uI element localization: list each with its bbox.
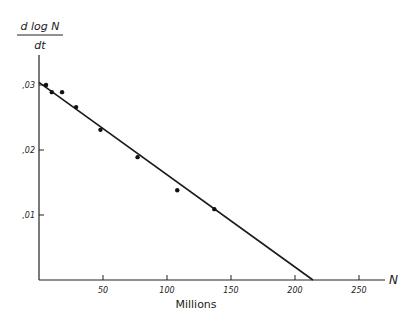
- data-point: [44, 83, 48, 87]
- data-point: [60, 90, 64, 94]
- data-point: [135, 155, 139, 159]
- y-label-numerator: d log N: [21, 20, 60, 33]
- x-tick-label: 100: [159, 286, 174, 295]
- data-point: [98, 128, 102, 132]
- data-point: [175, 188, 179, 192]
- fit-line: [39, 82, 313, 280]
- chart: d log N dt N 50100150200250 ,01,02,03 Mi…: [0, 0, 414, 330]
- x-tick-label: 250: [351, 286, 366, 295]
- y-label-denominator: dt: [34, 39, 46, 52]
- x-axis-title: Millions: [175, 298, 216, 311]
- x-tick-label: 50: [98, 286, 108, 295]
- y-ticks: ,01,02,03: [22, 81, 44, 220]
- y-tick-label: ,01: [22, 211, 35, 220]
- data-point: [50, 90, 54, 94]
- x-ticks: 50100150200250: [98, 275, 367, 295]
- data-point: [212, 207, 216, 211]
- y-tick-label: ,03: [22, 81, 35, 90]
- data-point: [74, 105, 78, 109]
- x-tick-label: 200: [287, 286, 302, 295]
- x-axis-end-label: N: [389, 273, 398, 287]
- x-tick-label: 150: [223, 286, 238, 295]
- y-tick-label: ,02: [22, 146, 35, 155]
- y-axis-label: d log N dt: [17, 20, 63, 52]
